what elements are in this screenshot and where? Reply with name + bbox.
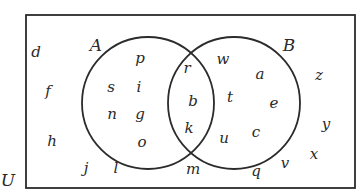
element-a: a: [256, 65, 265, 83]
element-r: r: [183, 59, 191, 77]
element-m: m: [186, 160, 200, 178]
element-k: k: [184, 119, 193, 137]
element-w: w: [217, 50, 230, 68]
set-label-a: A: [88, 35, 102, 55]
element-s: s: [107, 78, 115, 96]
element-o: o: [137, 133, 146, 151]
element-y: y: [321, 115, 331, 133]
element-l: l: [114, 159, 119, 177]
element-u: u: [219, 129, 229, 147]
element-b: b: [188, 92, 198, 110]
element-c: c: [252, 123, 261, 141]
element-i: i: [137, 78, 142, 96]
element-d: d: [31, 43, 41, 61]
element-f: f: [44, 82, 53, 100]
element-j: j: [81, 159, 89, 177]
set-label-u: U: [1, 170, 16, 190]
element-x: x: [310, 145, 319, 163]
element-n: n: [107, 105, 117, 123]
element-h: h: [47, 132, 57, 150]
element-z: z: [314, 66, 323, 84]
element-p: p: [135, 49, 145, 67]
set-label-b: B: [282, 35, 296, 55]
element-q: q: [251, 162, 261, 180]
element-e: e: [270, 94, 279, 112]
element-g: g: [135, 105, 145, 123]
element-t: t: [227, 88, 234, 106]
element-v: v: [281, 154, 290, 172]
venn-diagram: dfhjlpsingorbkmwateucqvxyz ABU: [0, 0, 364, 195]
